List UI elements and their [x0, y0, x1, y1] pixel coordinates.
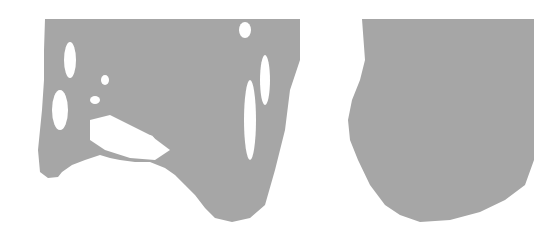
abstract-shape-canvas	[0, 0, 534, 240]
left-shape	[38, 19, 300, 222]
right-shape	[348, 19, 534, 222]
